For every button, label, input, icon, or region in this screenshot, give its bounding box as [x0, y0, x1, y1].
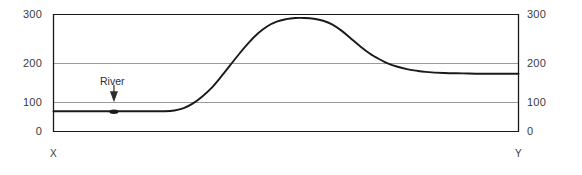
terrain-profile-chart	[0, 0, 582, 175]
river-annotation-label: River	[100, 76, 125, 87]
y-tick-right-200: 200	[527, 58, 561, 69]
y-tick-right-0: 0	[527, 126, 561, 137]
y-tick-left-100: 100	[8, 97, 42, 108]
chart-figure: 300 200 100 0 300 200 100 0 X Y River	[0, 0, 582, 175]
y-tick-left-300: 300	[8, 9, 42, 20]
y-tick-right-300: 300	[527, 9, 561, 20]
x-endpoint-end-label: Y	[515, 149, 522, 159]
y-tick-left-200: 200	[8, 58, 42, 69]
x-endpoint-start-label: X	[50, 149, 57, 159]
y-tick-right-100: 100	[527, 97, 561, 108]
terrain-profile-line	[54, 18, 519, 111]
river-marker	[109, 110, 118, 114]
y-tick-left-0: 0	[8, 126, 42, 137]
river-annotation-arrow	[109, 85, 118, 114]
river-arrow-head	[110, 91, 118, 102]
